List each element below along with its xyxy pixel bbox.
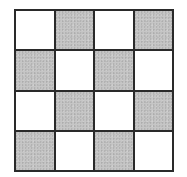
- light-cell: [56, 132, 94, 170]
- light-cell: [95, 92, 133, 130]
- light-cell: [135, 51, 173, 89]
- light-cell: [16, 11, 54, 49]
- shaded-cell: [56, 11, 94, 49]
- light-cell: [135, 132, 173, 170]
- light-cell: [56, 51, 94, 89]
- shaded-cell: [135, 11, 173, 49]
- shaded-cell: [135, 92, 173, 130]
- shaded-cell: [16, 51, 54, 89]
- shaded-cell: [95, 51, 133, 89]
- checkerboard-grid: [14, 9, 174, 172]
- shaded-cell: [56, 92, 94, 130]
- light-cell: [16, 92, 54, 130]
- shaded-cell: [95, 132, 133, 170]
- light-cell: [95, 11, 133, 49]
- shaded-cell: [16, 132, 54, 170]
